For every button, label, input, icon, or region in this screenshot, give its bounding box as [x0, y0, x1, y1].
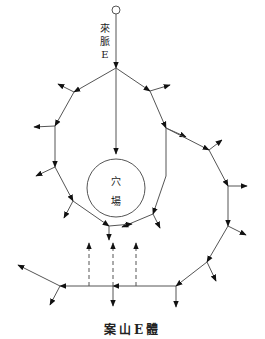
diagram-caption: 案山E體	[104, 320, 161, 337]
center-label-bottom: 場	[111, 193, 121, 208]
center-circle	[87, 159, 145, 217]
center-label-top: 穴	[111, 173, 121, 188]
flow-diagram	[0, 0, 265, 339]
ring-left	[55, 68, 116, 226]
dashed-arrows	[89, 243, 136, 286]
outer-branch-arrows	[18, 140, 247, 307]
outer-chain	[60, 128, 228, 286]
source-node	[112, 6, 120, 14]
